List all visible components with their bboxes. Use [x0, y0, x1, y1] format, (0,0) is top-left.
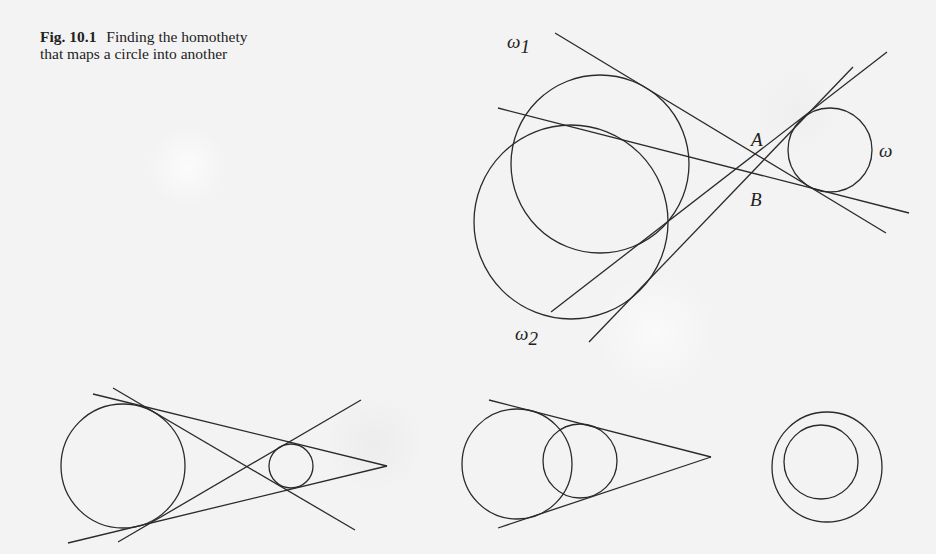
tangent-line: [589, 67, 853, 342]
label-omega1: ω1: [507, 31, 530, 57]
diagram-concentric-circles: [772, 412, 882, 522]
tangent-line: [555, 33, 886, 233]
label-omega: ω: [879, 140, 892, 161]
circle: [462, 409, 572, 519]
circle: [61, 404, 185, 528]
circle: [784, 425, 858, 499]
diagram-external-internal-tangents: [61, 388, 387, 543]
tangent-line: [118, 400, 361, 542]
diagram-three-circles: [474, 33, 909, 342]
tangent-line: [498, 457, 711, 528]
tangent-line: [551, 52, 887, 312]
tangent-line: [93, 394, 387, 466]
label-point-b: B: [750, 189, 762, 210]
geometry-figure: ω1 ω2 ω A B: [0, 0, 936, 554]
circle: [543, 424, 617, 498]
diagram-intersecting-circles: [462, 400, 711, 528]
tangent-line: [498, 108, 909, 213]
omega-circle: [788, 108, 872, 192]
label-point-a: A: [749, 129, 763, 150]
tangent-line: [489, 400, 711, 457]
tangent-line: [113, 388, 355, 530]
label-omega2: ω2: [515, 323, 538, 349]
circle: [772, 412, 882, 522]
